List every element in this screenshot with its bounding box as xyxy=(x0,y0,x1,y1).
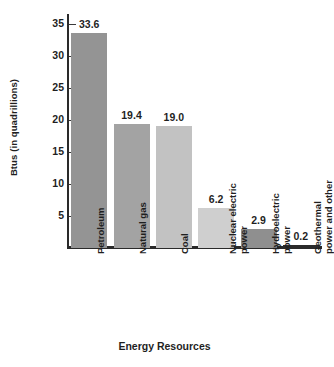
bar-category-label: Hydroelectric power xyxy=(270,168,292,254)
y-axis-tick-label: 5 xyxy=(34,209,64,221)
y-axis-title-text: Btus (in quadrillions) xyxy=(9,79,20,176)
bar-value-label: 19.0 xyxy=(146,111,202,123)
y-axis-tick-label: 25 xyxy=(34,81,64,93)
y-axis-tick-label: 15 xyxy=(34,145,64,157)
bar-category-label: Petroleum xyxy=(95,168,106,254)
y-axis-tick-label: 35 xyxy=(34,17,64,29)
bar-category-label: Natural gas xyxy=(137,168,148,254)
bar-category-label: Coal xyxy=(179,168,190,254)
y-axis-tick-label: 20 xyxy=(34,113,64,125)
y-axis-tick-label: 10 xyxy=(34,177,64,189)
y-axis-tick-label: 30 xyxy=(34,49,64,61)
bar-category-label: Nuclear electric power xyxy=(227,168,249,254)
bar-value-label: 33.6 xyxy=(61,18,117,30)
bar-category-label: Geothermal power and other xyxy=(312,168,334,254)
y-axis-title: Btus (in quadrillions) xyxy=(0,0,28,255)
x-axis-title: Energy Resources xyxy=(0,340,329,352)
